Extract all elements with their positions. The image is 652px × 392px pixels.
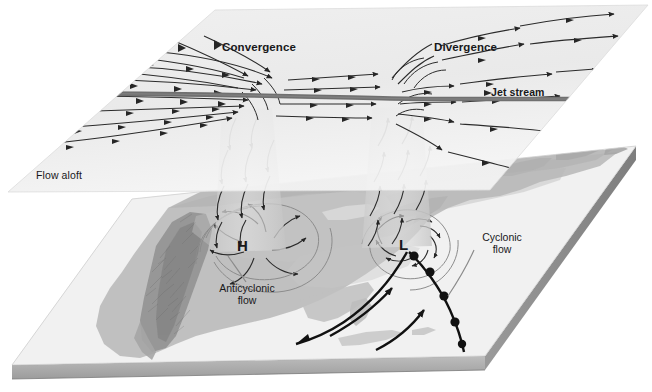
anticyclonic-flow-label: Anticyclonic flow <box>206 283 288 307</box>
jet-stream-label: Jet stream <box>491 87 545 99</box>
convergence-label: Convergence <box>222 41 296 54</box>
divergence-label: Divergence <box>434 41 497 54</box>
cyclonic-flow-label: Cyclonic flow <box>474 232 530 256</box>
flow-aloft-label: Flow aloft <box>36 170 82 182</box>
low-pressure-label: L <box>399 237 408 254</box>
diagram-canvas: Convergence Divergence Jet stream Flow a… <box>0 0 652 392</box>
diagram-svg <box>0 0 652 392</box>
high-pressure-label: H <box>237 238 248 255</box>
